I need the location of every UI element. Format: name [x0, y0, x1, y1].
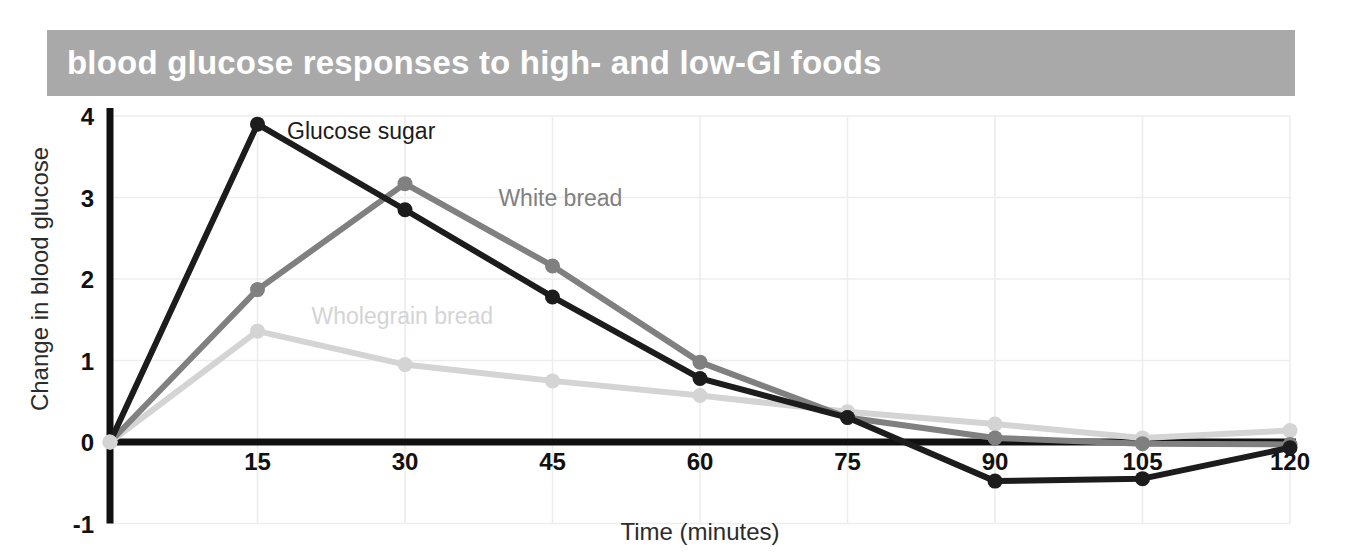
data-point	[1135, 436, 1150, 451]
data-point	[398, 176, 413, 191]
x-tick-label: 15	[244, 448, 271, 475]
data-point	[1283, 440, 1298, 455]
data-point	[545, 289, 560, 304]
y-tick-label: 2	[81, 266, 94, 293]
data-point	[250, 324, 265, 339]
data-point	[545, 373, 560, 388]
data-point	[840, 410, 855, 425]
x-tick-label: 90	[982, 448, 1009, 475]
data-point	[398, 202, 413, 217]
data-point	[545, 258, 560, 273]
x-tick-label: 30	[392, 448, 419, 475]
data-point	[250, 117, 265, 132]
data-point	[693, 355, 708, 370]
series-label-wholegrain-bread: Wholegrain bread	[312, 303, 494, 329]
data-point	[988, 430, 1003, 445]
x-tick-label: 75	[834, 448, 861, 475]
data-point	[1135, 471, 1150, 486]
chart-figure: blood glucose responses to high- and low…	[0, 0, 1350, 559]
data-point	[250, 282, 265, 297]
series-label-white-bread: White bread	[498, 185, 622, 211]
y-tick-label: 4	[81, 103, 95, 130]
data-point	[988, 474, 1003, 489]
y-tick-label: 0	[81, 429, 94, 456]
x-axis-title: Time (minutes)	[620, 518, 779, 545]
chart-plot-area: 43210-1 153045607590105120 Glucose sugar…	[0, 0, 1350, 559]
x-tick-labels: 153045607590105120	[244, 448, 1310, 475]
x-tick-label: 45	[539, 448, 566, 475]
y-tick-label: 3	[81, 185, 94, 212]
data-point	[398, 357, 413, 372]
data-point	[693, 371, 708, 386]
y-tick-label: -1	[73, 511, 94, 538]
data-point	[1283, 423, 1298, 438]
x-tick-label: 105	[1122, 448, 1162, 475]
y-axis-title: Change in blood glucose	[26, 147, 53, 411]
y-tick-labels: 43210-1	[73, 103, 95, 538]
data-point	[988, 417, 1003, 432]
series-label-glucose-sugar: Glucose sugar	[287, 118, 436, 144]
data-point	[693, 388, 708, 403]
data-point-origin	[103, 435, 118, 450]
y-tick-label: 1	[81, 348, 94, 375]
series-labels-group: Glucose sugarWhite breadWholegrain bread	[287, 118, 622, 329]
x-tick-label: 60	[687, 448, 714, 475]
